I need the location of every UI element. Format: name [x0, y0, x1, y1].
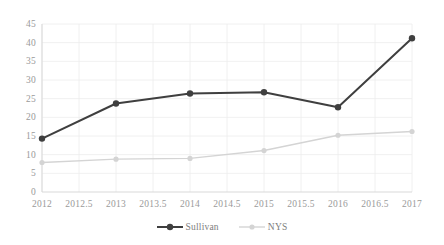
y-axis-tick-label: 40 — [10, 38, 36, 48]
y-axis-tick-label: 10 — [10, 150, 36, 160]
data-point-sullivan — [39, 135, 45, 141]
x-axis-tick-label: 2017 — [387, 199, 437, 210]
data-point-nys — [39, 160, 44, 165]
data-point-nys — [187, 156, 192, 161]
data-point-sullivan — [113, 100, 119, 106]
y-axis-tick-label: 0 — [10, 187, 36, 197]
legend-item-nys[interactable]: NYS — [239, 222, 288, 232]
legend-label: Sullivan — [186, 222, 219, 232]
data-point-sullivan — [335, 104, 341, 110]
data-point-nys — [335, 133, 340, 138]
y-axis-tick-label: 5 — [10, 168, 36, 178]
y-axis-tick-label: 25 — [10, 94, 36, 104]
data-point-nys — [261, 148, 266, 153]
data-point-nys — [113, 157, 118, 162]
y-axis-tick-label: 45 — [10, 19, 36, 29]
legend-marker-icon — [157, 222, 183, 232]
y-axis-tick-label: 15 — [10, 131, 36, 141]
legend-marker-icon — [239, 222, 265, 232]
y-axis-tick-label: 30 — [10, 75, 36, 85]
y-axis-tick-label: 20 — [10, 112, 36, 122]
y-axis-tick-label: 35 — [10, 56, 36, 66]
data-point-sullivan — [187, 90, 193, 96]
legend-item-sullivan[interactable]: Sullivan — [157, 222, 219, 232]
data-point-sullivan — [409, 35, 415, 41]
legend-label: NYS — [268, 222, 288, 232]
data-point-sullivan — [261, 89, 267, 95]
data-point-nys — [409, 129, 414, 134]
chart-legend: SullivanNYS — [0, 222, 444, 232]
line-chart: 051015202530354045 20122012.520132013.52… — [0, 0, 444, 245]
